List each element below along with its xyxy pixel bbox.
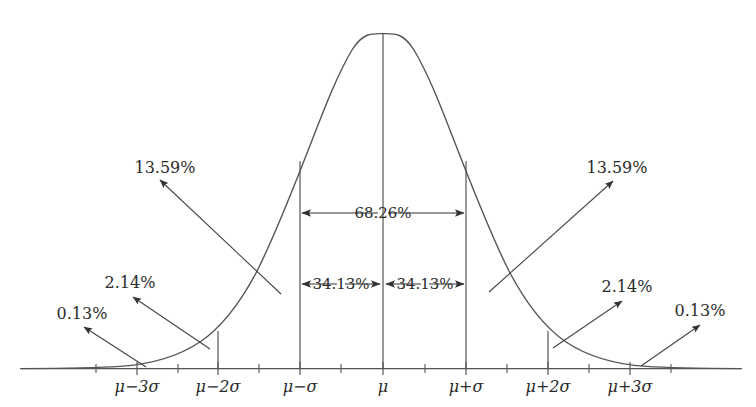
- dimension-34-right: 34.13%: [386, 275, 464, 293]
- label-34-13-right: 34.13%: [396, 275, 453, 293]
- axis-label-mu: μ: [378, 377, 388, 396]
- callout-left-2-14: 2.14%: [105, 273, 210, 349]
- callout-right-2-14: 2.14%: [553, 277, 652, 348]
- bell-curve: [22, 34, 740, 369]
- axis-label-plus-1sigma: μ+σ: [449, 377, 485, 396]
- axis-label-minus-2sigma: μ−2σ: [196, 377, 242, 396]
- label-left-0-13: 0.13%: [57, 304, 108, 323]
- distribution-diagram: 68.26% 34.13% 34.13% 13.59% 2.14% 0.13%: [0, 0, 756, 407]
- label-right-2-14: 2.14%: [602, 277, 653, 296]
- dimension-34-left: 34.13%: [302, 275, 380, 293]
- label-68-26: 68.26%: [354, 204, 411, 222]
- callout-left-0-13: 0.13%: [57, 304, 146, 367]
- sigma-vertical-lines: [218, 34, 548, 369]
- axis-label-minus-3sigma: μ−3σ: [115, 377, 161, 396]
- label-right-13-59: 13.59%: [586, 158, 647, 177]
- axis-label-plus-3sigma: μ+3σ: [608, 377, 654, 396]
- axis-label-minus-1sigma: μ−σ: [283, 377, 319, 396]
- callout-right-0-13: 0.13%: [641, 301, 725, 366]
- label-34-13-left: 34.13%: [312, 275, 369, 293]
- dimension-68-total: 68.26%: [302, 204, 464, 222]
- callout-left-13-59: 13.59%: [134, 158, 281, 294]
- normal-curve-path: [22, 34, 740, 369]
- callout-right-13-59: 13.59%: [489, 158, 648, 292]
- axis-tick-labels: μ−3σ μ−2σ μ−σ μ μ+σ μ+2σ μ+3σ: [115, 377, 654, 396]
- axis-label-plus-2sigma: μ+2σ: [526, 377, 572, 396]
- label-left-13-59: 13.59%: [134, 158, 195, 177]
- label-left-2-14: 2.14%: [105, 273, 156, 292]
- label-right-0-13: 0.13%: [675, 301, 726, 320]
- normal-distribution-figure: 68.26% 34.13% 34.13% 13.59% 2.14% 0.13%: [0, 0, 756, 407]
